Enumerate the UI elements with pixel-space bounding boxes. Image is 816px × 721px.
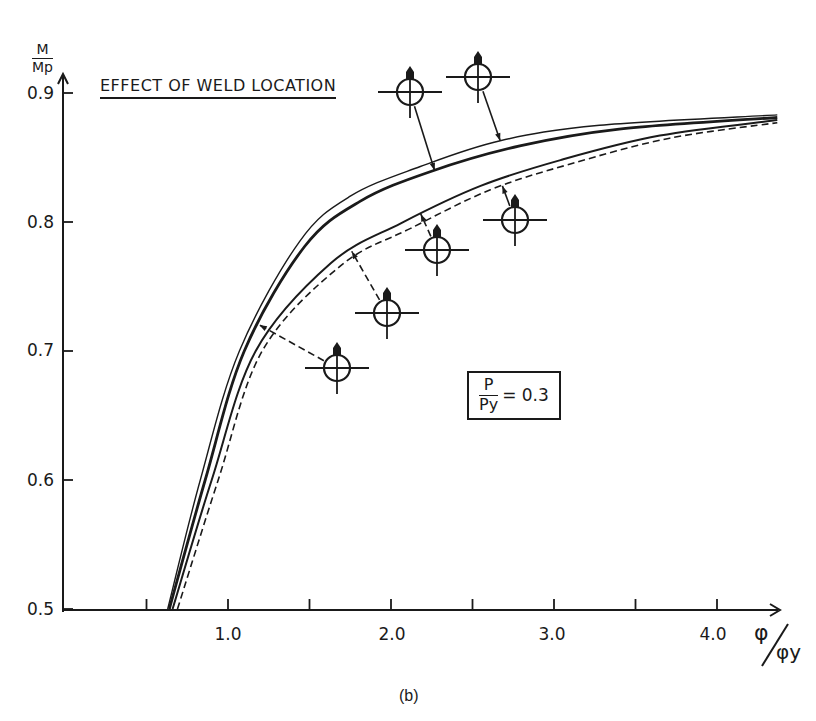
parameter-numerator: P: [479, 377, 498, 396]
y-axis-label-denominator: Mp: [32, 59, 53, 75]
leader-line: [414, 106, 434, 170]
weld-marker-D: [483, 186, 547, 246]
y-tick-label-0.9: 0.9: [14, 85, 54, 102]
weld-marker-F: [446, 51, 510, 141]
weld-symbol-icon: [511, 194, 519, 207]
curve-3: [173, 120, 778, 609]
x-tick-label-4.0: 4.0: [688, 626, 738, 643]
curve-4: [177, 123, 777, 609]
weld-marker-C: [405, 214, 469, 276]
y-tick-label-0.5: 0.5: [14, 601, 54, 618]
x-axis-label: φ φy: [752, 620, 812, 670]
parameter-annotation-box: P Py = 0.3: [467, 371, 561, 420]
arrowhead-icon: [430, 162, 435, 170]
parameter-denominator: Py: [479, 396, 498, 414]
figure-caption: (b): [399, 687, 419, 705]
leader-line: [483, 91, 500, 141]
curves: [168, 115, 778, 609]
parameter-fraction: P Py: [479, 377, 498, 414]
x-tick-label-3.0: 3.0: [527, 626, 577, 643]
x-tick-label-2.0: 2.0: [367, 626, 417, 643]
tick-marks: [63, 93, 717, 610]
curve-2: [169, 118, 777, 610]
x-axis-label-denominator: φy: [776, 640, 801, 664]
y-axis-label-numerator: M: [32, 42, 53, 59]
parameter-value: = 0.3: [502, 385, 549, 405]
y-axis-label: M Mp: [32, 42, 53, 74]
axes: [58, 74, 780, 616]
arrowhead-icon: [495, 133, 500, 141]
x-tick-label-1.0: 1.0: [203, 626, 253, 643]
weld-symbol-icon: [383, 287, 391, 300]
weld-marker-A: [259, 325, 369, 394]
arrowhead-icon: [502, 186, 507, 194]
leader-line: [352, 251, 380, 300]
y-tick-label-0.6: 0.6: [14, 472, 54, 489]
weld-symbol-icon: [474, 51, 482, 64]
chart-title: EFFECT OF WELD LOCATION: [100, 78, 336, 99]
weld-symbol-icon: [433, 224, 441, 237]
arrowhead-icon: [352, 251, 358, 259]
y-tick-label-0.7: 0.7: [14, 342, 54, 359]
weld-symbol-icon: [333, 342, 341, 355]
weld-marker-E: [378, 66, 442, 170]
weld-symbol-icon: [406, 66, 414, 79]
weld-marker-B: [352, 251, 419, 339]
chart-canvas: [0, 0, 816, 721]
y-tick-label-0.8: 0.8: [14, 214, 54, 231]
arrowhead-icon: [259, 325, 267, 331]
